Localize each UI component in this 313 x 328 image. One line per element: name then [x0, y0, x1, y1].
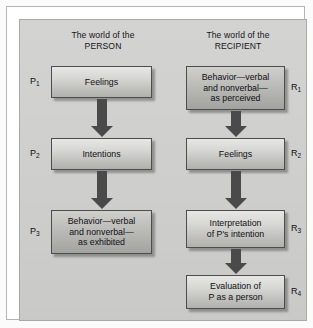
node-p1: Feelings [51, 66, 152, 98]
arrow-stem [231, 249, 241, 263]
arrow-head [91, 126, 113, 137]
figure-page: The world of the PERSON The world of the… [0, 0, 313, 328]
node-p3: Behavior—verbal and nonverbal— as exhibi… [51, 210, 152, 254]
label-subscript: 3 [298, 227, 302, 234]
arrow-down-icon-p2-p3 [91, 171, 113, 209]
arrow-head [225, 126, 247, 137]
arrow-head [225, 263, 247, 274]
node-p2: Intentions [51, 138, 152, 170]
arrow-head [225, 198, 247, 209]
arrow-stem [97, 99, 107, 126]
label-r2: R2 [291, 148, 301, 159]
arrow-stem [231, 171, 241, 198]
label-p2: P2 [30, 148, 40, 159]
node-r2: Feelings [186, 138, 285, 170]
label-subscript: 3 [36, 230, 40, 237]
label-r1: R1 [291, 82, 301, 93]
arrow-down-icon-p1-p2 [91, 99, 113, 137]
label-letter: R [291, 223, 298, 233]
column-header-person: The world of the PERSON [42, 30, 164, 51]
figure-frame: The world of the PERSON The world of the… [6, 6, 305, 320]
label-subscript: 2 [298, 152, 302, 159]
label-letter: R [291, 148, 298, 158]
label-subscript: 4 [298, 290, 302, 297]
label-r3: R3 [291, 223, 301, 234]
node-r3: Interpretation of P's intention [186, 210, 285, 248]
arrow-down-icon-r3-r4 [225, 249, 247, 274]
label-subscript: 2 [36, 152, 40, 159]
label-letter: R [291, 82, 298, 92]
label-subscript: 1 [298, 86, 302, 93]
arrow-down-icon-r2-r3 [225, 171, 247, 209]
label-p1: P1 [30, 76, 40, 87]
arrow-stem [97, 171, 107, 198]
label-r4: R4 [291, 286, 301, 297]
diagram-panel: The world of the PERSON The world of the… [19, 19, 307, 321]
arrow-stem [231, 111, 241, 126]
node-r1: Behavior—verbal and nonverbal— as percei… [186, 66, 285, 110]
label-p3: P3 [30, 226, 40, 237]
label-letter: R [291, 286, 298, 296]
arrow-down-icon-r1-r2 [225, 111, 247, 137]
column-header-recipient: The world of the RECIPIENT [176, 30, 300, 51]
arrow-head [91, 198, 113, 209]
label-subscript: 1 [36, 80, 40, 87]
node-r4: Evaluation of P as a person [186, 275, 285, 309]
